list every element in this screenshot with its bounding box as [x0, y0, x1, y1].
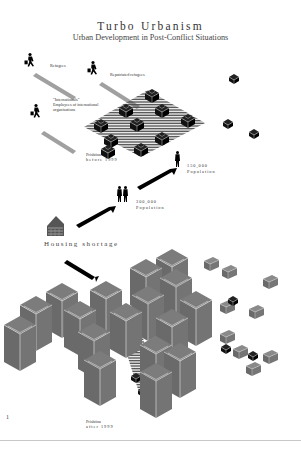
- refugees-arrow: [33, 73, 76, 100]
- label-pop150-2: Population: [187, 169, 216, 174]
- person-icon-300k-a: [117, 186, 122, 202]
- house-icon-shortage: [47, 216, 64, 236]
- label-repatriated: Repatriated refugees: [110, 72, 145, 77]
- person-icon-300k-b: [123, 186, 128, 202]
- label-pop150-1: 150,000: [187, 163, 208, 168]
- walker-icon-repatriated: [88, 61, 98, 75]
- page-number: 1: [6, 414, 9, 420]
- bottom-rule: [0, 440, 301, 441]
- walker-icon-internationals: [31, 104, 41, 118]
- label-refugees: Refugees: [50, 63, 66, 68]
- label-housing-shortage: Housing shortage: [44, 240, 119, 248]
- label-internationals-3: organisations: [53, 107, 75, 112]
- diagram-artwork: [0, 0, 301, 451]
- person-icon-150k: [175, 151, 180, 167]
- walker-icon-refugees: [25, 53, 35, 67]
- label-before-2: before 1999: [86, 157, 118, 162]
- label-pop300-2: Population: [136, 205, 165, 210]
- internationals-arrow: [41, 131, 76, 154]
- label-after-2: after 1999: [86, 424, 114, 429]
- label-pop300-1: 300,000: [136, 199, 157, 204]
